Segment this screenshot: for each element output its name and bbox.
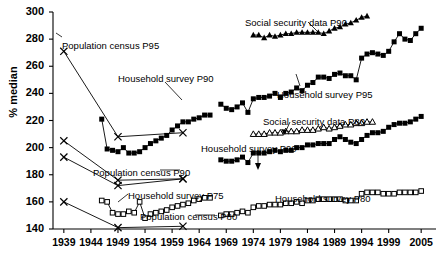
- data-point-marker: [365, 52, 370, 57]
- data-point-marker: [60, 154, 67, 161]
- data-point-marker: [132, 151, 137, 156]
- data-point-marker: [116, 212, 121, 217]
- data-point-marker: [170, 205, 175, 210]
- data-point-marker: [327, 76, 332, 81]
- data-point-marker: [224, 159, 229, 164]
- data-point-marker: [110, 210, 115, 215]
- annotation-pop-census-p95: Population census P95: [62, 40, 159, 51]
- data-point-marker: [359, 137, 364, 142]
- data-point-marker: [180, 119, 185, 124]
- data-point-marker: [316, 75, 321, 80]
- data-point-marker: [370, 190, 375, 195]
- annotation-household-survey-p90-mid: Household survey P90: [201, 143, 297, 154]
- data-point-marker: [403, 190, 408, 195]
- data-point-marker: [413, 31, 418, 36]
- data-point-marker: [218, 157, 223, 162]
- data-point-marker: [408, 190, 413, 195]
- data-point-marker: [262, 204, 267, 209]
- annotation-social-security-p80: Social security data P80: [263, 116, 365, 127]
- data-point-marker: [402, 121, 407, 126]
- annotation-household-survey-p75: Household survey P75: [128, 190, 224, 201]
- data-point-marker: [262, 95, 267, 100]
- data-point-marker: [316, 141, 321, 146]
- data-point-marker: [321, 75, 326, 80]
- data-point-marker: [381, 53, 386, 58]
- data-point-marker: [164, 133, 169, 138]
- data-point-marker: [121, 145, 126, 150]
- data-point-marker: [115, 149, 120, 154]
- data-point-marker: [105, 146, 110, 151]
- data-point-marker: [267, 202, 272, 207]
- data-point-marker: [251, 96, 256, 101]
- annotation-pop-census-p80: Population census P80: [140, 211, 237, 222]
- data-point-marker: [105, 200, 110, 205]
- data-point-marker: [148, 141, 153, 146]
- annotation-household-survey-p80: Household survey P80: [275, 193, 371, 204]
- x-axis-tick-label: 1999: [372, 236, 406, 248]
- data-point-marker: [337, 134, 342, 139]
- data-point-marker: [392, 122, 397, 127]
- data-point-marker: [419, 26, 424, 31]
- data-point-marker: [127, 209, 132, 214]
- data-point-marker: [186, 119, 191, 124]
- data-point-marker: [310, 80, 315, 85]
- data-point-marker: [332, 137, 337, 142]
- y-axis-tick-label: 240: [14, 86, 44, 98]
- data-point-marker: [375, 130, 380, 135]
- data-point-marker: [327, 141, 332, 146]
- y-axis-tick-label: 180: [14, 168, 44, 180]
- data-point-marker: [381, 129, 386, 134]
- data-point-marker: [267, 94, 272, 99]
- data-point-marker: [202, 113, 207, 118]
- data-point-marker: [392, 191, 397, 196]
- data-point-marker: [175, 204, 180, 209]
- series-household-survey-p95: [218, 26, 423, 115]
- data-point-marker: [343, 73, 348, 78]
- data-point-marker: [386, 191, 391, 196]
- data-point-marker: [245, 110, 250, 115]
- chart-container: % median 1401601802002202402602803001939…: [0, 0, 443, 261]
- data-point-marker: [365, 133, 370, 138]
- data-point-marker: [137, 149, 142, 154]
- data-point-marker: [353, 17, 359, 23]
- data-point-marker: [348, 20, 354, 26]
- data-point-marker: [251, 205, 256, 210]
- data-point-marker: [121, 212, 126, 217]
- data-point-marker: [240, 100, 245, 105]
- data-point-marker: [397, 121, 402, 126]
- annotation-household-survey-p90-top: Household survey P90: [118, 73, 214, 84]
- data-point-marker: [186, 201, 191, 206]
- data-point-marker: [60, 198, 67, 205]
- data-point-marker: [408, 119, 413, 124]
- data-point-marker: [305, 142, 310, 147]
- data-point-marker: [229, 107, 234, 112]
- data-point-marker: [305, 83, 310, 88]
- data-point-marker: [370, 50, 375, 55]
- data-point-marker: [359, 56, 364, 61]
- data-point-marker: [229, 159, 234, 164]
- data-point-marker: [392, 39, 397, 44]
- y-axis-tick-label: 140: [14, 222, 44, 234]
- data-point-marker: [218, 102, 223, 107]
- x-axis-tick-label: 2005: [404, 236, 438, 248]
- annotation-household-survey-p95: Household survey P95: [277, 89, 373, 100]
- data-point-marker: [402, 37, 407, 42]
- data-point-marker: [170, 127, 175, 132]
- data-point-marker: [370, 130, 375, 135]
- data-point-marker: [376, 190, 381, 195]
- data-point-marker: [348, 73, 353, 78]
- data-point-marker: [153, 138, 158, 143]
- data-point-marker: [126, 151, 131, 156]
- y-axis-tick-label: 160: [14, 195, 44, 207]
- data-point-marker: [321, 141, 326, 146]
- data-point-marker: [99, 117, 104, 122]
- data-point-marker: [343, 137, 348, 142]
- data-point-marker: [364, 13, 370, 19]
- data-point-marker: [159, 136, 164, 141]
- y-axis-tick-label: 260: [14, 59, 44, 71]
- data-point-marker: [337, 71, 342, 76]
- data-point-marker: [413, 190, 418, 195]
- data-point-marker: [397, 190, 402, 195]
- data-point-marker: [143, 145, 148, 150]
- data-point-marker: [235, 157, 240, 162]
